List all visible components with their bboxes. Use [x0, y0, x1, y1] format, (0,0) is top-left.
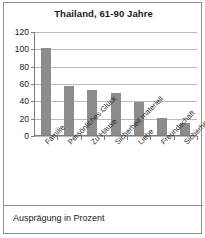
y-axis-tick: [31, 136, 35, 137]
y-axis-tick-label: 0: [24, 131, 29, 141]
chart-figure: Thailand, 61-90 Jahre 020406080100120 Fa…: [0, 0, 205, 238]
chart-frame: Thailand, 61-90 Jahre 020406080100120 Fa…: [3, 2, 202, 234]
y-axis-tick-label: 20: [20, 114, 29, 124]
chart-caption: Ausprägung in Prozent: [13, 213, 105, 223]
y-axis-tick: [31, 119, 35, 120]
x-axis-labels-group: FamiliePersönliches GlückZu HauseSicherh…: [4, 3, 203, 103]
caption-divider: [4, 205, 203, 206]
